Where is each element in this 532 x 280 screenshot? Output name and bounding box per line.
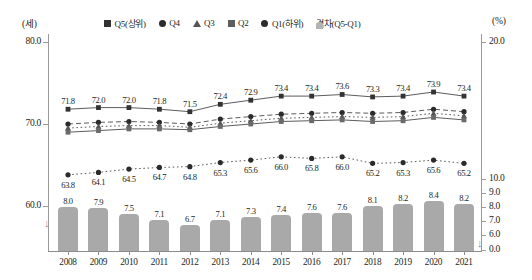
x-tick-mark: [434, 251, 435, 255]
data-point-marker[interactable]: [187, 164, 192, 169]
data-point-marker[interactable]: [401, 118, 406, 123]
data-point-marker[interactable]: [65, 125, 71, 130]
data-point-marker[interactable]: [340, 154, 345, 159]
data-label: 73.4: [396, 83, 409, 93]
data-point-marker[interactable]: [309, 118, 314, 123]
right-tick-label: 20.0: [489, 36, 504, 46]
bar[interactable]: [241, 217, 261, 251]
bar-value-label: 6.7: [185, 214, 195, 224]
data-point-marker[interactable]: [431, 115, 436, 120]
x-tick-mark: [312, 251, 313, 255]
x-tick-mark: [464, 251, 465, 255]
bar-value-label: 8.1: [368, 195, 378, 205]
legend-item-2[interactable]: Q4: [159, 18, 180, 28]
data-point-marker[interactable]: [340, 92, 345, 97]
bar-value-label: 7.1: [216, 209, 226, 219]
data-point-marker[interactable]: [431, 90, 436, 95]
data-point-marker[interactable]: [401, 94, 406, 99]
bar[interactable]: [88, 208, 108, 251]
x-tick-mark: [403, 251, 404, 255]
bar[interactable]: [271, 215, 291, 251]
bar[interactable]: [58, 207, 78, 251]
data-point-marker[interactable]: [248, 157, 253, 162]
data-label: 71.8: [153, 96, 166, 106]
legend-item-6[interactable]: 격차(Q5-Q1): [316, 17, 360, 30]
data-label: 65.8: [305, 163, 318, 173]
data-point-marker[interactable]: [218, 160, 223, 165]
data-point-marker[interactable]: [340, 118, 345, 123]
data-point-marker[interactable]: [126, 167, 131, 172]
legend-item-5[interactable]: Q1(하위): [261, 17, 303, 30]
bar-value-label: 7.6: [337, 202, 347, 212]
legend-marker-circle-icon: [159, 20, 166, 27]
bar[interactable]: [454, 204, 474, 251]
x-tick-mark: [251, 251, 252, 255]
bar[interactable]: [424, 201, 444, 251]
data-point-marker[interactable]: [218, 124, 223, 129]
x-tick-mark: [190, 251, 191, 255]
data-point-marker[interactable]: [248, 122, 253, 127]
data-label: 72.0: [122, 95, 135, 105]
bar[interactable]: [363, 206, 383, 251]
data-point-marker[interactable]: [279, 119, 284, 124]
data-label: 73.6: [335, 81, 348, 91]
data-point-marker[interactable]: [431, 110, 437, 115]
bar-value-label: 8.4: [429, 190, 439, 200]
x-axis-label-2020: 2020: [425, 257, 442, 267]
data-point-marker[interactable]: [370, 119, 375, 124]
right-tick-label: 8.0: [489, 201, 500, 211]
data-point-marker[interactable]: [370, 95, 375, 100]
data-point-marker[interactable]: [157, 107, 162, 112]
legend-item-4[interactable]: Q2: [228, 18, 249, 28]
chart-legend: Q5(상위)Q4Q3Q2Q1(하위)격차(Q5-Q1): [104, 16, 434, 30]
bar[interactable]: [149, 220, 169, 251]
data-point-marker[interactable]: [96, 128, 101, 133]
legend-item-1[interactable]: Q5(상위): [104, 17, 146, 30]
data-point-marker[interactable]: [370, 161, 375, 166]
data-point-marker[interactable]: [65, 172, 70, 177]
data-point-marker[interactable]: [157, 165, 162, 170]
bar[interactable]: [210, 220, 230, 251]
x-axis-label-2016: 2016: [303, 257, 320, 267]
data-point-marker[interactable]: [127, 105, 132, 110]
bar-value-label: 8.0: [63, 196, 73, 206]
data-point-marker[interactable]: [127, 127, 132, 132]
bar[interactable]: [393, 204, 413, 251]
data-point-marker[interactable]: [309, 94, 314, 99]
data-label: 65.3: [214, 168, 227, 178]
data-point-marker[interactable]: [400, 160, 405, 165]
data-point-marker[interactable]: [157, 127, 162, 132]
bar[interactable]: [302, 213, 322, 251]
data-label: 64.7: [153, 172, 166, 182]
bar[interactable]: [119, 214, 139, 251]
data-label: 73.4: [274, 83, 287, 93]
data-point-marker[interactable]: [248, 98, 253, 103]
data-point-marker[interactable]: [96, 170, 101, 175]
x-axis-label-2010: 2010: [120, 257, 137, 267]
legend-label: Q5(상위): [115, 17, 146, 30]
data-point-marker[interactable]: [66, 107, 71, 112]
data-point-marker[interactable]: [431, 157, 436, 162]
data-point-marker[interactable]: [66, 130, 71, 135]
data-point-marker[interactable]: [462, 118, 467, 123]
data-point-marker[interactable]: [96, 105, 101, 110]
data-point-marker[interactable]: [218, 102, 223, 107]
data-point-marker[interactable]: [187, 127, 192, 132]
bar[interactable]: [332, 213, 352, 251]
data-point-marker[interactable]: [279, 94, 284, 99]
data-point-marker[interactable]: [461, 161, 466, 166]
data-point-marker[interactable]: [279, 154, 284, 159]
data-point-marker[interactable]: [95, 123, 101, 128]
data-point-marker[interactable]: [400, 114, 406, 119]
data-point-marker[interactable]: [309, 156, 314, 161]
data-point-marker[interactable]: [461, 113, 467, 118]
x-axis-label-2008: 2008: [59, 257, 76, 267]
bar-value-label: 7.1: [155, 209, 165, 219]
data-point-marker[interactable]: [462, 94, 467, 99]
legend-item-3[interactable]: Q3: [193, 18, 215, 28]
bar[interactable]: [180, 225, 200, 251]
x-tick-mark: [159, 251, 160, 255]
data-point-marker[interactable]: [187, 109, 192, 114]
data-label: 65.3: [396, 168, 409, 178]
data-label: 73.4: [305, 83, 318, 93]
